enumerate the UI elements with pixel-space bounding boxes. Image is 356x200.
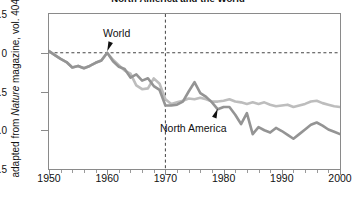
- x-tick-mark: [165, 170, 166, 175]
- x-minor-tick-mark: [61, 170, 62, 173]
- y-axis-label-italic: Nature: [10, 86, 21, 116]
- x-minor-tick-mark: [119, 170, 120, 173]
- chart-title: North America and the World: [0, 0, 356, 4]
- series-line-world: [49, 51, 340, 107]
- x-minor-tick-mark: [293, 170, 294, 173]
- y-axis-label-post: magazine, vol. 404: [10, 0, 21, 86]
- x-minor-tick-mark: [84, 170, 85, 173]
- x-minor-tick-mark: [270, 170, 271, 173]
- y-axis-label: adapted from Nature magazine, vol. 404: [10, 10, 21, 178]
- x-tick-mark: [282, 170, 283, 175]
- chart-container: North America and the World adapted from…: [0, 0, 356, 200]
- x-minor-tick-mark: [328, 170, 329, 173]
- annotation-arrow-north-america: [212, 109, 218, 119]
- x-minor-tick-mark: [259, 170, 260, 173]
- x-minor-tick-mark: [189, 170, 190, 173]
- y-axis-label-pre: adapted from: [10, 116, 21, 178]
- x-minor-tick-mark: [142, 170, 143, 173]
- annotation-arrow-world: [107, 41, 113, 51]
- y-tick-label: 0: [0, 47, 7, 58]
- x-minor-tick-mark: [96, 170, 97, 173]
- series-canvas: [49, 14, 340, 169]
- x-minor-tick-mark: [235, 170, 236, 173]
- x-minor-tick-mark: [154, 170, 155, 173]
- plot-inner: [49, 14, 340, 169]
- y-tick-label: −0.5: [0, 86, 7, 97]
- x-tick-mark: [224, 170, 225, 175]
- x-tick-mark: [49, 170, 50, 175]
- annotation-north-america: North America: [160, 122, 227, 134]
- x-tick-mark: [340, 170, 341, 175]
- y-tick-mark: [41, 130, 48, 131]
- y-tick-mark: [41, 53, 48, 54]
- y-tick-label: −1.5: [0, 164, 7, 175]
- x-minor-tick-mark: [247, 170, 248, 173]
- x-minor-tick-mark: [212, 170, 213, 173]
- x-minor-tick-mark: [72, 170, 73, 173]
- x-minor-tick-mark: [177, 170, 178, 173]
- x-minor-tick-mark: [317, 170, 318, 173]
- x-tick-mark: [107, 170, 108, 175]
- x-minor-tick-mark: [200, 170, 201, 173]
- x-minor-tick-mark: [130, 170, 131, 173]
- y-tick-label: 0.5: [0, 9, 7, 20]
- plot-area: [48, 13, 341, 170]
- y-tick-mark: [41, 92, 48, 93]
- y-tick-label: −1.0: [0, 125, 7, 136]
- x-minor-tick-mark: [305, 170, 306, 173]
- annotation-world: World: [103, 27, 130, 39]
